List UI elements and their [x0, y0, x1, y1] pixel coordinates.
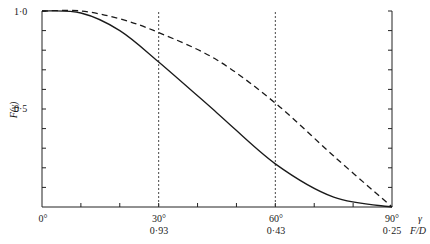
dashed-curve — [42, 10, 392, 207]
x-fd-label-30: 0·93 — [150, 226, 168, 236]
chart-axes — [42, 11, 392, 207]
x-tick-label-0: 0° — [39, 214, 48, 224]
y-tick-label-1: 1·0 — [14, 7, 27, 17]
x-axis-title-fd: F/D — [410, 226, 426, 236]
reference-lines — [159, 12, 276, 207]
x-fd-label-60: 0·43 — [267, 226, 285, 236]
x-tick-label-60: 60° — [269, 214, 283, 224]
y-axis-title: F(γ) — [8, 102, 19, 119]
x-axis-title-gamma: γ — [418, 214, 422, 224]
x-tick-label-30: 30° — [152, 214, 166, 224]
chart-plot-area — [0, 0, 430, 244]
x-fd-label-90: 0·25 — [383, 226, 401, 236]
solid-curve — [42, 11, 392, 207]
x-tick-label-90: 90° — [385, 214, 399, 224]
